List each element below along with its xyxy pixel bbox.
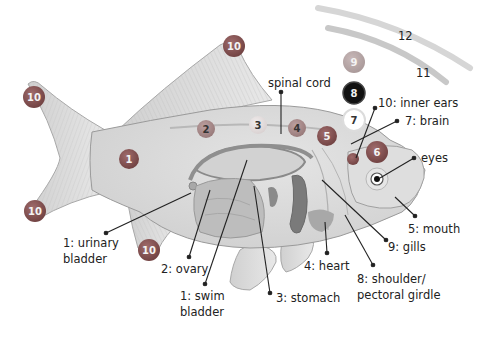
svg-text:1: 1 xyxy=(126,154,133,165)
svg-text:4: 4 xyxy=(294,123,301,134)
hearing-range-arcs xyxy=(318,8,470,82)
label-shoulder-line1: 8: shoulder/ xyxy=(357,272,426,286)
svg-text:10: 10 xyxy=(27,92,41,103)
svg-text:6: 6 xyxy=(374,147,381,158)
marker-5: 5 xyxy=(317,126,337,146)
label-brain: 7: brain xyxy=(405,114,449,128)
eye xyxy=(366,168,388,190)
label-swim-line2: bladder xyxy=(180,305,224,319)
marker-3: 3 xyxy=(249,116,267,134)
label-heart: 4: heart xyxy=(304,259,350,273)
label-spinal-cord: spinal cord xyxy=(268,76,331,90)
marker-pelvic-fin: 10 xyxy=(138,239,160,261)
marker-tail-top: 10 xyxy=(23,86,45,108)
svg-text:10: 10 xyxy=(142,245,156,256)
label-stomach: 3: stomach xyxy=(276,291,340,305)
label-gills: 9: gills xyxy=(388,240,426,254)
label-mouth: 5: mouth xyxy=(408,222,460,236)
marker-8: 8 xyxy=(343,82,365,104)
label-inner-ears: 10: inner ears xyxy=(378,96,458,110)
marker-dorsal-fin: 10 xyxy=(223,35,245,57)
marker-2: 2 xyxy=(197,120,215,138)
marker-4: 4 xyxy=(288,119,306,137)
anal-fin xyxy=(230,246,276,291)
label-ovary: 2: ovary xyxy=(161,262,208,276)
arc-label-11: 11 xyxy=(416,66,431,80)
marker-1: 1 xyxy=(119,149,139,169)
label-urinary-line2: bladder xyxy=(63,252,107,266)
svg-text:7: 7 xyxy=(351,115,358,126)
fish-anatomy-diagram: 12 11 xyxy=(0,0,481,339)
label-shoulder-line2: pectoral girdle xyxy=(357,288,440,302)
marker-7: 7 xyxy=(343,109,365,131)
label-urinary-line1: 1: urinary xyxy=(63,236,119,250)
svg-text:10: 10 xyxy=(227,41,241,52)
svg-text:5: 5 xyxy=(324,131,331,142)
svg-text:3: 3 xyxy=(255,120,262,131)
svg-text:8: 8 xyxy=(351,88,358,99)
svg-text:2: 2 xyxy=(203,124,210,135)
arc-label-12: 12 xyxy=(398,29,413,43)
marker-tail-bottom: 10 xyxy=(24,200,46,222)
marker-9: 9 xyxy=(343,51,365,73)
svg-text:10: 10 xyxy=(28,206,42,217)
label-swim-line1: 1: swim xyxy=(180,289,225,303)
label-eyes: eyes xyxy=(421,151,448,165)
marker-6: 6 xyxy=(366,141,388,163)
svg-text:9: 9 xyxy=(351,57,358,68)
